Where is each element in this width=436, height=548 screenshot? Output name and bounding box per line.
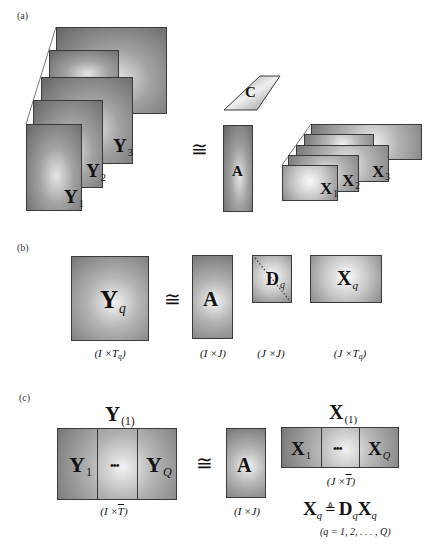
x-unfolded-label: X(1)	[329, 402, 357, 422]
x-block-divider-1	[321, 427, 322, 468]
figure-canvas: (a) Y3 Y2 Y1 ≅ C A X3 X2 X1 (b) Yq	[0, 0, 436, 548]
matrix-a-c-label: A	[237, 455, 251, 475]
x-block-q-label: XQ	[368, 439, 390, 458]
matrix-yq-label: Yq	[100, 287, 126, 312]
dim-label-dq: (J ×J)	[257, 347, 284, 359]
matrix-dq-label: Dq	[266, 270, 285, 288]
dim-label-x-unfolded: (J ×T)	[327, 475, 356, 487]
x-unfolded-matrix: X1 ••• XQ	[281, 427, 399, 468]
slice-y3-label: Y3	[113, 136, 133, 155]
matrix-dq-diagonal: Dq	[252, 255, 292, 303]
y-block-divider-2	[137, 428, 138, 500]
slice-x1-label: X1	[320, 180, 338, 197]
y-block-1-label: Y1	[69, 454, 92, 476]
y-block-q-label: YQ	[146, 454, 172, 476]
slice-x3-label: X3	[372, 163, 390, 180]
dim-label-xq: (J ×Tq)	[334, 347, 366, 359]
matrix-yq: Yq	[71, 256, 149, 341]
x-block-1-label: X1	[291, 439, 311, 458]
approx-symbol-a: ≅	[191, 139, 208, 159]
matrix-a-c: A	[226, 428, 266, 498]
factor-a-label: A	[232, 164, 243, 179]
slice-y2-label: Y2	[86, 161, 106, 180]
factor-c-label: C	[245, 85, 256, 100]
approx-symbol-b: ≅	[164, 289, 181, 309]
dim-label-a-c: (I ×J)	[234, 505, 260, 517]
slice-x2-label: X2	[342, 172, 360, 189]
y-unfolded-matrix: Y1 ••• YQ	[57, 428, 177, 500]
dim-label-yq: (I ×Tq)	[94, 347, 125, 359]
matrix-xq: Xq	[310, 255, 382, 303]
panel-a-label: (a)	[17, 10, 28, 21]
index-range: (q = 1, 2, . . . , Q)	[320, 526, 391, 537]
x-block-divider-2	[359, 427, 360, 468]
factor-a-matrix: A	[223, 125, 253, 212]
panel-b-label: (b)	[17, 242, 29, 253]
tensor-y-slice-1: Y1	[26, 124, 82, 211]
y-block-ellipsis: •••	[110, 460, 119, 471]
dim-label-y-unfolded: (I ×T)	[100, 505, 127, 517]
y-unfolded-label: Y(1)	[105, 404, 135, 425]
x-block-ellipsis: •••	[333, 443, 342, 454]
slice-y1-label: Y1	[64, 187, 84, 206]
matrix-xq-label: Xq	[337, 268, 358, 288]
matrix-a-b-label: A	[203, 289, 218, 310]
y-block-divider-1	[97, 428, 98, 500]
tensor-x-slice-1: X1	[282, 165, 338, 201]
matrix-a-b: A	[192, 255, 233, 339]
panel-c-label: (c)	[19, 392, 30, 403]
dim-label-a: (I ×J)	[200, 347, 226, 359]
approx-symbol-c: ≅	[196, 453, 213, 473]
scaling-formula: Xq≜DqXq	[303, 499, 377, 518]
